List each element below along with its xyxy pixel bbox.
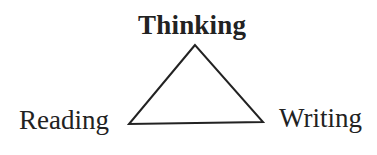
label-reading: Reading [19, 107, 109, 134]
label-thinking: Thinking [138, 12, 246, 39]
triangle-shape [129, 45, 263, 124]
label-writing: Writing [279, 105, 362, 132]
